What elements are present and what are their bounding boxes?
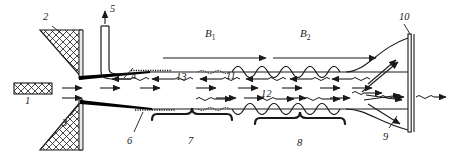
b1-field-label: B1 — [205, 28, 215, 42]
callout-10: 10 — [399, 12, 410, 23]
forward-wavy-arrows — [196, 92, 382, 101]
reverse-flow-arrows — [112, 78, 370, 81]
hatched-block-left — [14, 83, 52, 94]
figure-canvas: B1 B2 1 2 3 4 5 6 7 8 9 10 11 12 13 — [0, 0, 450, 156]
nozzle-flare — [346, 38, 408, 130]
callout-12: 12 — [261, 89, 272, 100]
callout-7: 7 — [188, 136, 193, 147]
collector-plate — [404, 24, 414, 132]
gas-inlet-tube — [101, 11, 131, 79]
callout-13: 13 — [176, 72, 187, 83]
callout-3: 3 — [62, 118, 67, 129]
callout-5: 5 — [110, 4, 115, 15]
exit-plume-region — [362, 60, 446, 124]
callout-1: 1 — [25, 96, 30, 107]
callout-2: 2 — [43, 12, 48, 23]
b2-field-label: B2 — [300, 28, 310, 42]
callout-11: 11 — [226, 71, 236, 82]
lower-channel-wall — [80, 100, 410, 110]
callout-9: 9 — [383, 132, 388, 143]
callout-6: 6 — [127, 136, 132, 147]
upper-hatched-wedge — [40, 30, 83, 79]
callout-4: 4 — [131, 71, 136, 82]
callout-8: 8 — [297, 138, 302, 149]
